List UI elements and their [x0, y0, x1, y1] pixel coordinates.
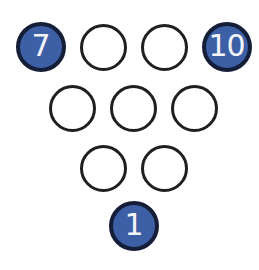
circle-r1c4-filled: 10: [202, 22, 252, 72]
circle-row-4: 1: [109, 201, 159, 251]
circle-r1c2-empty: [80, 24, 127, 71]
circle-r3c2-empty: [141, 145, 188, 192]
circle-r1c1-filled: 7: [16, 22, 66, 72]
circle-r3c1-empty: [80, 145, 127, 192]
circle-number: 7: [31, 31, 49, 61]
triangle-circle-diagram: 7 10 1: [4, 0, 259, 270]
circle-r2c3-empty: [171, 85, 218, 132]
circle-number: 10: [208, 31, 244, 61]
circle-number: 1: [124, 210, 142, 240]
circle-row-3: [80, 145, 188, 192]
circle-row-1: 7 10: [16, 22, 252, 72]
circle-r4c1-filled: 1: [109, 201, 159, 251]
circle-r1c3-empty: [141, 24, 188, 71]
circle-r2c1-empty: [49, 85, 96, 132]
circle-r2c2-empty: [110, 85, 157, 132]
circle-row-2: [49, 85, 218, 132]
